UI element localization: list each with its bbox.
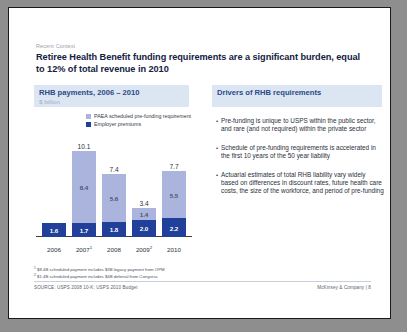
chart-panel-header: RHB payments, 2006 – 2010 $ billion — [34, 85, 189, 107]
page-title: Retiree Health Benefit funding requireme… — [36, 51, 371, 75]
bar-segment-paea: 8.4 — [72, 151, 96, 223]
bar-segment-employer: 2.0 — [132, 220, 156, 237]
bar-2006: 1.6 — [42, 223, 66, 237]
bar-total-label: 10.1 — [68, 143, 100, 150]
bar-segment-label: 5.5 — [162, 191, 186, 198]
brand-separator: | — [366, 285, 367, 290]
footnote-marker: 2 — [34, 273, 36, 277]
footer-divider — [34, 281, 371, 282]
bar-total-label: 3.4 — [128, 200, 160, 207]
legend-swatch-icon — [86, 122, 91, 127]
bar-segment-paea: 1.4 — [132, 208, 156, 220]
bullet-item: •Actuarial estimates of total RHB liabil… — [216, 171, 384, 196]
bullet-text: Schedule of pre-funding requirements is … — [221, 144, 384, 161]
bar-segment-employer: 1.6 — [42, 223, 66, 237]
bar-segment-label: 1.8 — [102, 226, 126, 233]
chart-panel: RHB payments, 2006 – 2010 $ billion — [34, 85, 189, 107]
legend-item-employer: Employer premiums — [86, 121, 196, 127]
footnote-marker: 2 — [150, 245, 152, 250]
x-axis-label-2010: 2010 — [156, 246, 192, 253]
footnote-marker: 1 — [90, 245, 92, 250]
bar-segment-paea: 5.6 — [102, 174, 126, 222]
bar-segment-employer: 2.2 — [162, 218, 186, 237]
bar-segment-employer: 1.8 — [102, 222, 126, 237]
slide-frame: Recent Context Retiree Health Benefit fu… — [8, 7, 391, 319]
slide-canvas: Recent Context Retiree Health Benefit fu… — [14, 13, 385, 313]
bar-segment-label: 1.4 — [132, 211, 156, 218]
bullet-text: Actuarial estimates of total RHB liabili… — [221, 171, 384, 196]
bar-segment-label: 1.6 — [42, 227, 66, 234]
bullet-item: •Pre-funding is unique to USPS within th… — [216, 117, 384, 134]
legend-swatch-icon — [86, 114, 91, 119]
chart-title: RHB payments, 2006 – 2010 — [39, 88, 189, 97]
legend-item-paea: PAEA scheduled pre-funding requirement — [86, 113, 196, 119]
bar-segment-paea: 5.5 — [162, 171, 186, 218]
page-number: 8 — [368, 285, 371, 290]
chart-legend: PAEA scheduled pre-funding requirement E… — [86, 113, 196, 129]
source-line: SOURCE: USPS 2008 10-K; USPS 2010 Budget — [34, 285, 138, 290]
bar-total-label: 7.4 — [98, 166, 130, 173]
bar-segment-label: 1.7 — [72, 226, 96, 233]
bullet-text: Pre-funding is unique to USPS within the… — [221, 117, 384, 134]
brand-name: McKinsey & Company — [317, 285, 364, 290]
bar-2007: 8.41.7 — [72, 151, 96, 237]
footnote-marker: 1 — [34, 266, 36, 270]
footnote: 2 $1.4B scheduled payment includes $4B d… — [34, 273, 264, 280]
footer-brand: McKinsey & Company | 8 — [317, 285, 371, 290]
drivers-panel-header: Drivers of RHB requirements — [212, 85, 382, 107]
drivers-bullet-list: •Pre-funding is unique to USPS within th… — [216, 117, 384, 206]
footnotes: 1 $8.4B scheduled payment includes $3B l… — [34, 266, 264, 280]
bar-total-label: 7.7 — [158, 163, 190, 170]
legend-label: Employer premiums — [94, 121, 141, 127]
drivers-panel: Drivers of RHB requirements — [212, 85, 382, 107]
bar-segment-employer: 1.7 — [72, 223, 96, 237]
bar-segment-label: 2.0 — [132, 225, 156, 232]
bar-2010: 5.52.2 — [162, 171, 186, 237]
legend-label: PAEA scheduled pre-funding requirement — [94, 113, 191, 119]
slide-eyebrow: Recent Context — [36, 43, 75, 49]
bar-2009: 1.42.0 — [132, 208, 156, 237]
bar-2008: 5.61.8 — [102, 174, 126, 237]
drivers-title: Drivers of RHB requirements — [217, 88, 382, 97]
bar-segment-label: 8.4 — [72, 183, 96, 190]
bar-segment-label: 5.6 — [102, 194, 126, 201]
chart-subtitle: $ billion — [39, 98, 189, 106]
footnote: 1 $8.4B scheduled payment includes $3B l… — [34, 266, 264, 273]
bullet-item: •Schedule of pre-funding requirements is… — [216, 144, 384, 161]
stacked-bar-chart: 1.620068.41.710.1200715.61.87.420081.42.… — [34, 145, 194, 257]
bar-segment-label: 2.2 — [162, 224, 186, 231]
